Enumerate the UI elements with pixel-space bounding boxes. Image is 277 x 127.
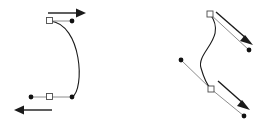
right-bottom-anchor-square[interactable]: [208, 86, 214, 92]
right-top-handle-dot[interactable]: [247, 48, 252, 53]
left-top-anchor-square[interactable]: [47, 18, 53, 24]
bezier-diagram-canvas: [0, 0, 277, 127]
left-bottom-anchor-square[interactable]: [47, 94, 53, 100]
left-bottom-handle-dot-right[interactable]: [70, 95, 75, 100]
canvas-background: [0, 0, 277, 127]
right-bottom-handle-dot[interactable]: [242, 114, 247, 119]
right-top-anchor-square[interactable]: [207, 11, 213, 17]
left-top-handle-dot[interactable]: [70, 19, 75, 24]
left-bottom-handle-dot-left[interactable]: [29, 95, 34, 100]
right-mid-handle-dot[interactable]: [179, 58, 184, 63]
